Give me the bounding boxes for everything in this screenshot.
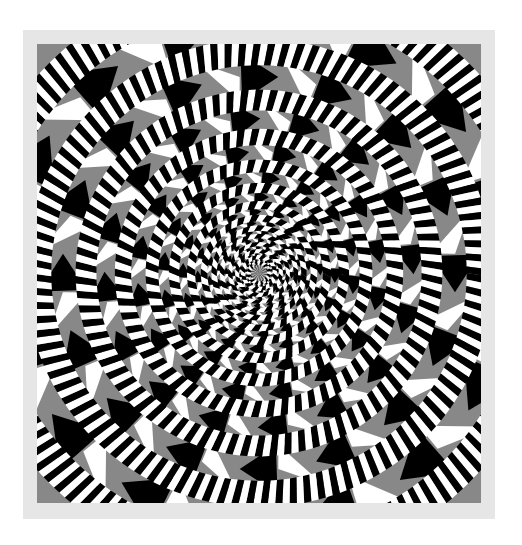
fraser-spiral-illusion [37, 44, 481, 503]
spiral-artwork [37, 44, 481, 503]
